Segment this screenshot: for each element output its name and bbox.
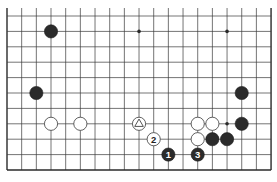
move-number: 1 bbox=[166, 149, 172, 160]
star-point bbox=[225, 122, 229, 126]
black-stone bbox=[44, 25, 57, 38]
white-stone bbox=[132, 117, 145, 130]
black-stone bbox=[235, 86, 248, 99]
black-stone bbox=[235, 117, 248, 130]
white-stone bbox=[191, 133, 204, 146]
white-stone bbox=[44, 117, 57, 130]
star-point bbox=[225, 30, 229, 34]
black-stone bbox=[220, 133, 233, 146]
white-stone: 2 bbox=[147, 133, 160, 146]
white-stone bbox=[191, 117, 204, 130]
white-stone bbox=[206, 117, 219, 130]
star-point bbox=[137, 30, 141, 34]
black-stone bbox=[30, 86, 43, 99]
black-stone bbox=[206, 133, 219, 146]
move-number: 3 bbox=[195, 149, 200, 160]
go-board: 213 bbox=[0, 0, 277, 182]
black-stone: 3 bbox=[191, 148, 204, 161]
black-stone: 1 bbox=[162, 148, 175, 161]
move-number: 2 bbox=[151, 134, 156, 145]
white-stone bbox=[74, 117, 87, 130]
